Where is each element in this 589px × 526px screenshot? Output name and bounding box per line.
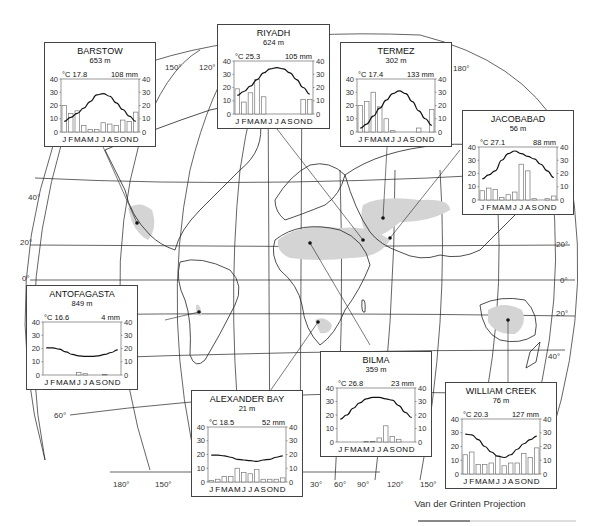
svg-text:J: J [338,445,342,454]
svg-text:10: 10 [289,464,297,473]
svg-text:30: 30 [560,156,568,165]
svg-text:30: 30 [197,436,205,445]
precipitation-bar [483,464,488,474]
climograph-bilma: BILMA359 m°C 26.823 mm001010202030304040… [320,351,432,457]
precipitation-bar [545,199,550,200]
svg-text:30: 30 [346,88,354,97]
svg-text:40: 40 [468,143,476,152]
precipitation-bar [526,171,531,200]
mean-temperature-label: °C 26.8 [338,379,363,388]
svg-text:O: O [521,477,527,486]
mean-temperature-label: °C 16.6 [44,313,69,322]
svg-text:M: M [488,477,495,486]
svg-text:0: 0 [124,371,128,380]
precipitation-bar [255,470,260,482]
lon-label-90e: 90° [357,480,369,489]
lon-label-180-bottom: 180° [113,480,130,489]
svg-text:S: S [96,378,101,387]
svg-text:40: 40 [326,384,334,393]
svg-text:30: 30 [451,428,459,437]
precipitation-bar [235,468,240,482]
svg-text:10: 10 [142,114,150,123]
svg-text:20: 20 [223,83,231,92]
svg-text:J: J [242,485,246,494]
svg-text:J: J [513,203,517,212]
svg-text:D: D [280,485,286,494]
svg-text:J: J [377,445,381,454]
svg-text:J: J [77,378,81,387]
climograph-title: ANTOFAGASTA [49,289,115,299]
svg-text:20: 20 [289,450,297,459]
climograph-elevation: 653 m [90,56,111,65]
climograph-elevation: 21 m [239,404,256,413]
temperature-line [340,397,412,419]
svg-text:20: 20 [32,344,40,353]
svg-text:40: 40 [197,423,205,432]
svg-text:20: 20 [438,101,446,110]
svg-text:10: 10 [124,357,132,366]
svg-text:F: F [486,203,491,212]
precipitation-bar [268,479,273,482]
svg-text:40: 40 [32,318,40,327]
climograph-title: BILMA [362,355,389,365]
svg-text:10: 10 [543,456,551,465]
svg-text:D: D [551,203,557,212]
precipitation-bar [127,121,132,132]
precipitation-bar [209,481,214,482]
precipitation-bar [397,439,402,442]
precipitation-bar [88,129,93,132]
precipitation-bar [552,196,557,200]
precipitation-bar [83,374,88,375]
climograph-elevation: 624 m [263,38,284,47]
svg-text:10: 10 [438,114,446,123]
svg-text:N: N [422,135,428,144]
svg-text:M: M [260,117,267,126]
precipitation-bar [121,120,126,132]
svg-text:F: F [215,485,220,494]
precipitation-bar [281,478,286,482]
svg-text:J: J [502,477,506,486]
svg-text:0: 0 [418,438,422,447]
precipitation-bar [378,107,383,132]
lon-label-30e: 30° [310,480,322,489]
svg-text:J: J [62,135,66,144]
svg-text:A: A [281,117,287,126]
lon-label-150w-top: 150° [165,63,182,72]
svg-text:D: D [429,135,435,144]
svg-text:S: S [261,485,266,494]
svg-text:O: O [102,378,108,387]
precipitation-bar [69,113,74,132]
svg-text:S: S [515,477,520,486]
precipitation-bar [417,128,422,132]
svg-text:0: 0 [350,128,354,137]
svg-text:M: M [74,135,81,144]
precipitation-bar [261,479,266,482]
svg-text:N: N [544,203,550,212]
lon-label-150w-bottom: 150° [155,480,172,489]
precipitation-bar [242,102,247,114]
svg-text:10: 10 [326,424,334,433]
lon-label-120e: 120° [387,480,404,489]
svg-text:40: 40 [124,318,132,327]
climograph-riyadh: RIYADH624 m°C 25.3105 mm0010102020303040… [217,24,330,129]
svg-text:10: 10 [223,96,231,105]
svg-text:A: A [508,477,514,486]
new-zealand-outline [526,342,540,368]
precipitation-bar [242,472,247,482]
svg-text:M: M [492,203,499,212]
lat-label-0: 0° [22,274,30,283]
svg-text:M: M [370,135,377,144]
precipitation-bar [493,189,498,200]
svg-text:O: O [416,135,422,144]
precipitation-bar [365,102,370,132]
svg-text:O: O [538,203,544,212]
precipitation-bar [301,99,306,114]
annual-precipitation-label: 133 mm [407,70,434,79]
svg-text:J: J [371,445,375,454]
climograph-antofagasta: ANTOFAGASTA849 m°C 16.64 mm0010102020303… [26,285,138,390]
climograph-barstow: BARSTOW653 m°C 17.8108 mm001010202030304… [44,42,156,147]
svg-text:40: 40 [418,384,426,393]
svg-text:S: S [287,117,292,126]
temperature-line [237,68,309,96]
svg-text:A: A [107,135,113,144]
